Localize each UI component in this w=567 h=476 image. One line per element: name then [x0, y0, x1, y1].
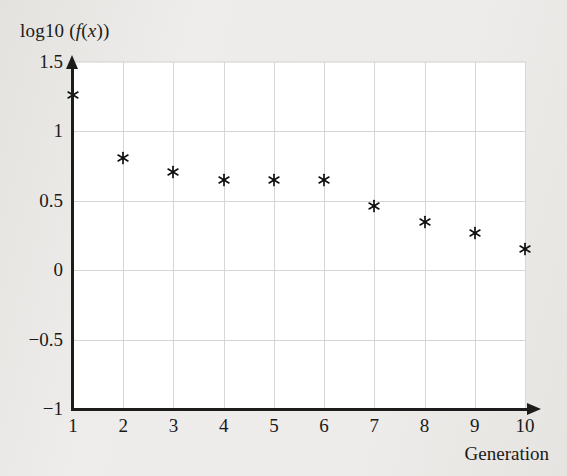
y-axis-title-prefix: log10 ( [20, 20, 76, 41]
gridline-vertical [425, 62, 426, 409]
x-axis-tick-label: 1 [68, 415, 78, 437]
x-axis-tick-label: 7 [370, 415, 380, 437]
gridline-vertical [324, 62, 325, 409]
x-axis-tick-label: 4 [219, 415, 229, 437]
gridline-vertical [475, 62, 476, 409]
y-axis-title: log10 (f(x)) [20, 20, 109, 42]
gridline-horizontal [73, 270, 525, 271]
gridline-vertical [224, 62, 225, 409]
plot-area [73, 62, 525, 409]
gridline-horizontal [73, 340, 525, 341]
y-axis-arrowhead [66, 55, 78, 69]
gridline-horizontal [73, 62, 525, 63]
gridline-vertical [274, 62, 275, 409]
x-axis-tick-label: 2 [118, 415, 128, 437]
y-axis-title-close-paren: )) [96, 20, 109, 41]
y-axis-tick-label: 0 [54, 259, 64, 281]
x-axis-line [71, 408, 529, 411]
y-axis-tick-label: 1 [54, 120, 64, 142]
x-axis-tick-label: 6 [319, 415, 329, 437]
y-axis-tick-label: 0.5 [39, 190, 63, 212]
chart-figure: log10 (f(x)) 1.510.50−0.5−1 12345678910 … [0, 0, 567, 476]
x-axis-arrowhead [527, 403, 541, 415]
y-axis-tick-label: −1 [43, 398, 63, 420]
y-axis-line [71, 66, 74, 411]
gridline-vertical [525, 62, 526, 409]
y-axis-tick-label: 1.5 [39, 51, 63, 73]
gridline-vertical [173, 62, 174, 409]
x-axis-tick-label: 10 [516, 415, 535, 437]
gridline-horizontal [73, 131, 525, 132]
x-axis-tick-label: 8 [420, 415, 430, 437]
gridline-horizontal [73, 201, 525, 202]
gridline-vertical [123, 62, 124, 409]
y-axis-tick-label: −0.5 [29, 329, 63, 351]
gridline-vertical [374, 62, 375, 409]
x-axis-title: Generation [465, 443, 549, 465]
x-axis-tick-label: 9 [470, 415, 480, 437]
x-axis-tick-label: 3 [169, 415, 179, 437]
x-axis-tick-label: 5 [269, 415, 279, 437]
